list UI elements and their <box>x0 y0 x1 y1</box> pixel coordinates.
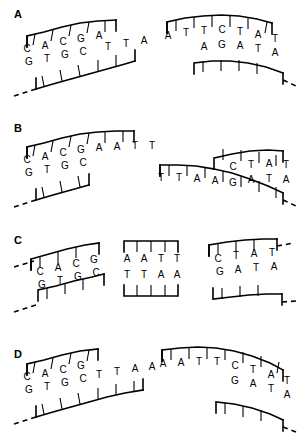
base-letter: T <box>124 269 130 280</box>
base-letter: A <box>178 357 185 368</box>
base-letter: T <box>158 172 164 183</box>
base-letter: T <box>269 247 275 258</box>
base-letter: T <box>255 43 261 54</box>
base-letter: G <box>61 49 69 60</box>
base-letter: T <box>253 262 259 273</box>
panel-c-right-duplex: C T A T G A T A <box>209 239 296 305</box>
base-letter: T <box>158 253 164 264</box>
base-letter: T <box>105 41 111 52</box>
base-letter: C <box>36 266 43 277</box>
base-letter: T <box>272 33 278 44</box>
base-letter: T <box>44 53 50 64</box>
base-letter: G <box>90 254 98 265</box>
base-letter: C <box>59 364 66 375</box>
base-letter: T <box>248 159 254 170</box>
base-letter: C <box>23 43 30 54</box>
base-letter: A <box>42 40 49 51</box>
base-letter: G <box>218 39 226 50</box>
base-letter: G <box>74 271 82 282</box>
base-letter: G <box>216 266 224 277</box>
base-letter: A <box>268 369 275 380</box>
base-letter: T <box>183 27 189 38</box>
base-letter: T <box>268 383 274 394</box>
base-letter: C <box>59 147 66 158</box>
base-letter: T <box>196 356 202 367</box>
base-letter: T <box>266 173 272 184</box>
base-letter: T <box>176 172 182 183</box>
base-letter: A <box>237 40 244 51</box>
base-letter: A <box>284 389 291 400</box>
base-letter: C <box>79 157 86 168</box>
panel-b-left-duplex: C A C G A A T T G T G C <box>14 131 155 207</box>
base-letter: A <box>272 47 279 58</box>
base-letter: T <box>174 253 180 264</box>
base-letter: T <box>57 275 63 286</box>
base-letter: C <box>23 371 30 382</box>
base-letter: A <box>266 158 273 169</box>
base-letter: A <box>158 269 165 280</box>
base-letter: A <box>283 174 290 185</box>
panel-c-left-duplex: C A C G G T G C <box>14 243 104 312</box>
base-letter: G <box>25 56 33 67</box>
base-letter: A <box>174 269 181 280</box>
base-letter: T <box>96 369 102 380</box>
base-letter: T <box>284 375 290 386</box>
base-letter: A <box>96 30 103 41</box>
base-letter: T <box>44 381 50 392</box>
base-letter: T <box>132 140 138 151</box>
panel-a-right-duplex: A T T C T A T A G A T A <box>165 15 296 86</box>
base-letter: G <box>25 384 33 395</box>
base-letter: A <box>132 363 139 374</box>
base-letter: A <box>194 173 201 184</box>
base-letter: T <box>233 250 239 261</box>
base-letter: T <box>283 159 289 170</box>
base-letter: C <box>92 267 99 278</box>
base-letter: C <box>23 154 30 165</box>
base-letter: A <box>235 264 242 275</box>
base-letter: T <box>214 356 220 367</box>
base-letter: C <box>229 161 236 172</box>
base-letter: A <box>124 253 131 264</box>
base-letter: T <box>250 364 256 375</box>
base-letter: A <box>55 262 62 273</box>
base-letter: A <box>96 142 103 153</box>
base-letter: A <box>271 261 278 272</box>
base-letter: A <box>141 253 148 264</box>
base-letter: G <box>231 375 239 386</box>
base-letter: A <box>42 368 49 379</box>
dna-figure: A B C D C A C G A T <box>0 0 298 440</box>
base-letter: A <box>250 378 257 389</box>
base-letter: T <box>123 38 129 49</box>
base-letter: G <box>61 160 69 171</box>
base-letter: A <box>160 358 167 369</box>
base-letter: T <box>44 164 50 175</box>
base-letter: A <box>248 174 255 185</box>
panel-d-left-duplex: C A C G T T A A G T G C <box>14 349 156 424</box>
panel-b-right-duplex: T T A A C T A T G A T A <box>158 149 296 206</box>
base-letter: A <box>149 361 156 372</box>
base-letter: G <box>38 279 46 290</box>
base-letter: G <box>25 167 33 178</box>
base-letter: A <box>255 29 262 40</box>
base-letter: T <box>237 26 243 37</box>
panel-d-right-duplex: A A T T C T A T G A T A <box>160 347 296 432</box>
base-letter: G <box>77 360 85 371</box>
base-letter: C <box>72 258 79 269</box>
dna-drawing: C A C G A T T A G T G C <box>0 0 298 440</box>
base-letter: A <box>165 30 172 41</box>
panel-c-middle-duplex: A A T T T T A A <box>124 241 181 296</box>
base-letter: C <box>214 253 221 264</box>
base-letter: C <box>79 373 86 384</box>
base-letter: A <box>251 248 258 259</box>
base-letter: T <box>149 140 155 151</box>
base-letter: G <box>77 144 85 155</box>
base-letter: A <box>201 41 208 52</box>
panel-a-left-duplex: C A C G A T T A G T G C <box>14 20 148 96</box>
base-letter: G <box>77 33 85 44</box>
base-letter: A <box>114 141 121 152</box>
base-letter: C <box>231 360 238 371</box>
base-letter: T <box>141 269 147 280</box>
base-letter: A <box>42 151 49 162</box>
base-letter: A <box>141 35 148 46</box>
base-letter: A <box>212 175 219 186</box>
